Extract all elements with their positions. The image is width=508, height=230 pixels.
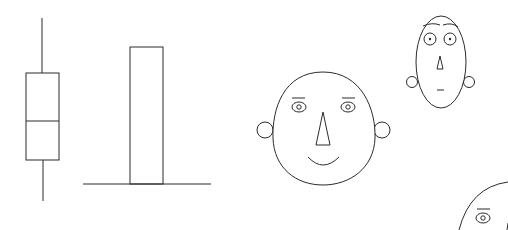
head-outline — [273, 72, 375, 185]
figure-canvas — [0, 0, 508, 230]
left-ear — [257, 122, 273, 138]
left-pupil — [429, 38, 431, 40]
box-whisker-plot — [26, 18, 59, 201]
right-ear — [464, 77, 475, 88]
right-pupil — [449, 38, 451, 40]
eye — [476, 213, 490, 223]
box — [26, 73, 59, 160]
bar-chart — [83, 47, 211, 184]
face-partial — [459, 182, 508, 230]
left-ear — [407, 77, 418, 88]
bar — [130, 47, 163, 184]
face-small — [407, 16, 475, 108]
face-large — [257, 72, 390, 185]
right-ear — [374, 122, 390, 138]
pupil — [481, 216, 485, 220]
